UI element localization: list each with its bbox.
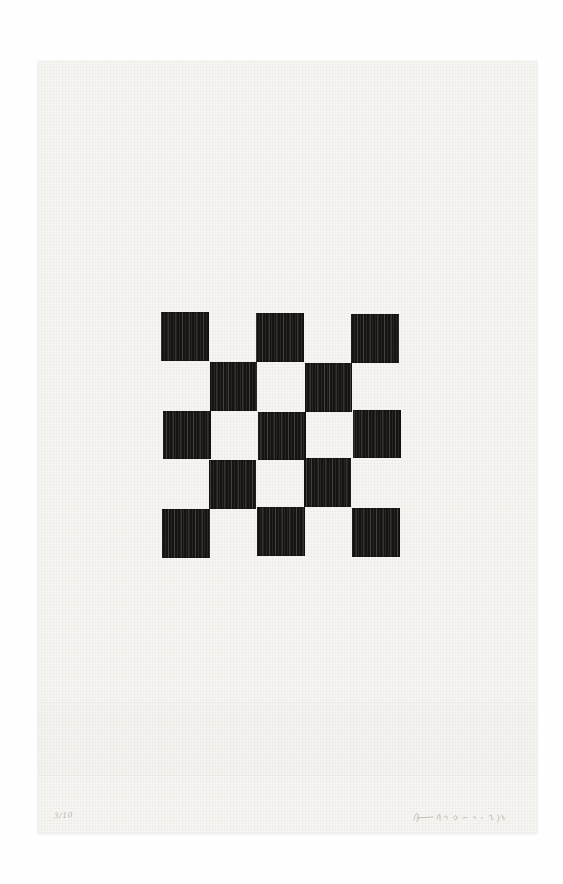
checkerboard-cell-white — [162, 362, 210, 411]
checkerboard-cell-white — [305, 411, 353, 460]
paper-crease-line-upper — [38, 702, 537, 704]
checkerboard-cell-black — [351, 314, 399, 363]
checkerboard-cell-white — [162, 459, 210, 508]
checkerboard-cell-white — [305, 313, 353, 362]
artist-signature — [410, 807, 518, 827]
checkerboard-cell-white — [210, 411, 258, 460]
edition-number: 3/10 — [54, 811, 73, 821]
paper-tonal-band — [38, 704, 537, 775]
checkerboard-cell-white — [352, 362, 400, 411]
print-paper: 3/10 — [38, 61, 537, 833]
checkerboard-cell-white — [210, 313, 258, 362]
checkerboard-cell-black — [162, 509, 210, 558]
checkerboard-cell-black — [352, 508, 400, 557]
checkerboard-cell-black — [256, 313, 304, 362]
checkerboard-cell-white — [210, 508, 258, 557]
checkerboard-cell-black — [257, 507, 305, 556]
checkerboard-print — [162, 313, 400, 557]
checkerboard-cell-white — [305, 508, 353, 557]
checkerboard-cell-black — [304, 458, 352, 507]
checkerboard-cell-white — [352, 459, 400, 508]
checkerboard-cell-black — [163, 411, 211, 460]
checkerboard-cell-black — [353, 410, 401, 459]
paper-crease-line-lower — [38, 775, 537, 777]
checkerboard-cell-black — [210, 362, 258, 411]
checkerboard-cell-black — [258, 412, 306, 461]
checkerboard-cell-white — [257, 459, 305, 508]
checkerboard-cell-black — [209, 460, 257, 509]
checkerboard-cell-black — [305, 363, 353, 412]
checkerboard-cell-white — [257, 362, 305, 411]
checkerboard-cell-black — [161, 312, 209, 361]
artwork-photo: 3/10 — [0, 0, 563, 884]
